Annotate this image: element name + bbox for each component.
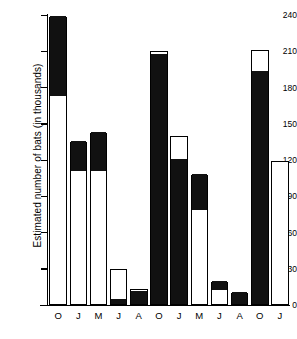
bar (70, 142, 88, 305)
x-axis-line (40, 305, 290, 306)
bar-segment-filled (151, 54, 167, 304)
x-axis-tick-label: J (116, 310, 121, 321)
bar (90, 133, 108, 305)
bar (211, 282, 229, 305)
bar-segment-filled (91, 132, 107, 171)
x-axis-tick-label: M (94, 310, 102, 321)
bar-segment-filled (50, 16, 66, 96)
bar-segment-filled (192, 174, 208, 210)
x-axis-tick-label: A (136, 310, 142, 321)
y-axis-tick (41, 232, 48, 233)
bar (191, 175, 209, 306)
x-axis-tick-label: J (76, 310, 81, 321)
y-axis-tick (41, 87, 48, 88)
bar (170, 136, 188, 305)
bar (251, 50, 269, 305)
y-axis-tick (41, 123, 48, 124)
x-axis-tick-label: J (217, 310, 222, 321)
x-axis-tick-label: O (256, 310, 263, 321)
bar (130, 289, 148, 305)
x-axis-tick-label: J (278, 310, 283, 321)
x-axis-tick-label: J (177, 310, 182, 321)
bat-population-bar-chart: Estimated number of bats (in thousands) … (0, 0, 297, 339)
x-axis-tick-label: O (155, 310, 162, 321)
y-axis-tick (41, 160, 48, 161)
y-axis-tick (41, 51, 48, 52)
y-axis-tick (41, 196, 48, 197)
bar (110, 269, 128, 305)
bar (150, 51, 168, 305)
x-axis-tick-label: A (236, 310, 242, 321)
bar-segment-filled (111, 299, 127, 304)
y-axis-tick (41, 15, 48, 16)
bar-segment-filled (131, 291, 147, 304)
bar-segment-filled (171, 159, 187, 304)
y-axis-tick (41, 305, 48, 306)
y-axis-tick (41, 268, 48, 269)
bar-segment-filled (252, 71, 268, 304)
bar (49, 17, 67, 305)
x-axis-tick-label: O (54, 310, 61, 321)
plot-area (48, 15, 290, 305)
bar (271, 161, 289, 305)
bar-segment-filled (71, 141, 87, 171)
bar-segment-filled (212, 281, 228, 289)
bar (231, 293, 249, 305)
x-axis-tick-label: M (195, 310, 203, 321)
y-axis-title: Estimated number of bats (in thousands) (32, 26, 43, 286)
bar-segment-filled (232, 292, 248, 304)
